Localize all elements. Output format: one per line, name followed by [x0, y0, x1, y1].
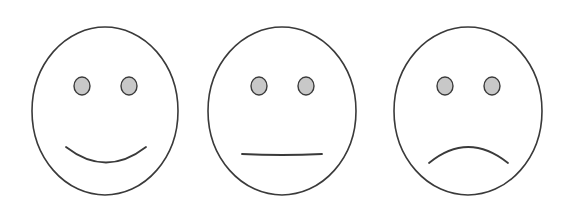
neutral-mouth [242, 154, 322, 155]
left-eye [74, 77, 90, 95]
face-outline [32, 27, 178, 195]
right-eye [298, 77, 314, 95]
faces-canvas [0, 0, 566, 217]
happy-face-icon [32, 27, 178, 195]
sad-face-icon [394, 27, 542, 195]
right-eye [484, 77, 500, 95]
right-eye [121, 77, 137, 95]
face-outline [394, 27, 542, 195]
left-eye [251, 77, 267, 95]
face-outline [208, 27, 356, 195]
left-eye [437, 77, 453, 95]
faces-illustration [0, 0, 566, 217]
neutral-face-icon [208, 27, 356, 195]
